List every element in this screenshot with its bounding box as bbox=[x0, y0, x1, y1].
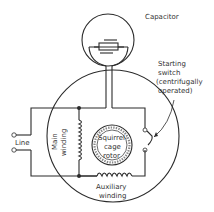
switch-label-1: Starting bbox=[158, 60, 186, 68]
wire-top-right bbox=[112, 108, 145, 128]
main-winding-label-1: Main bbox=[51, 133, 59, 150]
rotor-label-3: rotor bbox=[103, 152, 120, 160]
main-winding-label-2: winding bbox=[60, 129, 68, 156]
switch-label-4: operated) bbox=[158, 87, 193, 95]
wire-bottom-right bbox=[132, 150, 145, 176]
line-terminal-top bbox=[12, 133, 16, 137]
starting-switch bbox=[143, 128, 152, 152]
rotor-label-1: Squirrel- bbox=[98, 134, 128, 142]
rotor-label-2: cage bbox=[104, 143, 121, 151]
switch-label-2: switch bbox=[158, 69, 180, 77]
aux-winding-label-1: Auxiliary bbox=[96, 183, 127, 191]
switch-label-3: (centrifugally bbox=[156, 78, 203, 86]
motor-schematic: Capacitor Starting switch (centrifugally… bbox=[0, 0, 214, 212]
line-label: Line bbox=[15, 139, 30, 147]
line-terminal-bottom bbox=[12, 148, 16, 152]
main-winding-coil bbox=[79, 108, 82, 176]
wire-top-left bbox=[31, 108, 106, 135]
auxiliary-winding-coil bbox=[79, 173, 132, 176]
capacitor-label: Capacitor bbox=[145, 13, 179, 21]
aux-winding-label-2: winding bbox=[99, 192, 126, 200]
